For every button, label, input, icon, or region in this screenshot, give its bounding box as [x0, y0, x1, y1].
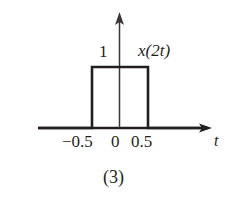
x-tick-label-positive-half: 0.5 — [131, 133, 152, 150]
pulse-waveform — [38, 67, 203, 128]
figure-container: 1 x(2t) −0.5 0 0.5 t (3) — [0, 0, 250, 211]
signal-name-label: x(2t) — [138, 42, 170, 59]
y-tick-label-1: 1 — [99, 43, 108, 60]
x-tick-label-negative-half: −0.5 — [62, 133, 93, 150]
signal-plot-svg — [0, 0, 250, 211]
x-axis-variable-label: t — [214, 133, 218, 149]
figure-caption: (3) — [103, 168, 124, 186]
x-tick-label-zero: 0 — [111, 133, 120, 150]
